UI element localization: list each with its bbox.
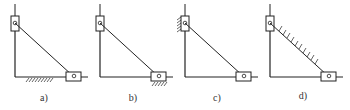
panel-label-a: a)	[40, 92, 48, 103]
mechanism-diagram	[0, 0, 350, 110]
panel-a	[11, 4, 88, 82]
ground-hatch-slider	[152, 82, 167, 86]
panel-d	[266, 4, 343, 81]
panel-label-c: c)	[213, 92, 221, 103]
ground-hatch-frame	[26, 78, 53, 82]
ground-hatch-link	[279, 26, 318, 64]
ground-hatch-vertical-slider	[177, 17, 181, 32]
panel-label-b: b)	[129, 92, 137, 103]
panel-label-d: d)	[299, 90, 307, 101]
panel-c	[177, 4, 258, 81]
panel-b	[96, 4, 173, 86]
